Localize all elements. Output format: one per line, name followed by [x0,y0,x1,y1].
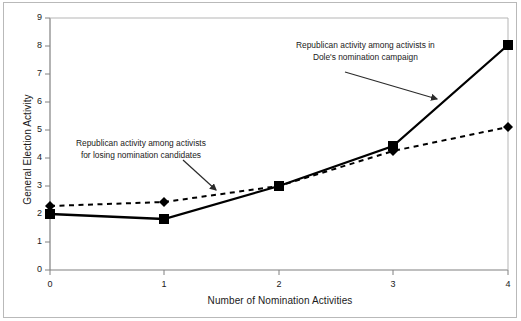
y-tick-label-8: 8 [26,40,42,50]
y-tick-label-0: 0 [26,264,42,274]
y-tick-label-9: 9 [26,12,42,22]
annotation-dole-line1: Republican activity among activists in [296,40,435,52]
series-losing-markers [45,122,513,211]
y-axis-title: General Election Activity [22,70,33,230]
x-axis-ticks [50,270,508,275]
annotation-losing-candidates: Republican activity among activists for … [76,138,206,161]
series-dole-markers [45,40,513,224]
x-tick-label-4: 4 [500,279,516,289]
annotation-losing-line2: for losing nomination candidates [76,150,206,162]
annotation-dole-campaign: Republican activity among activists in D… [296,40,435,63]
x-tick-label-3: 3 [385,279,401,289]
y-axis-ticks [45,18,50,270]
x-tick-label-0: 0 [42,279,58,289]
chart-figure: 9 8 7 6 5 4 3 2 1 0 0 1 2 3 4 General El… [0,0,521,321]
annotation-dole-line2: Dole's nomination campaign [296,52,435,64]
series-dole-campaign [45,40,513,224]
annotation-losing-line1: Republican activity among activists [76,138,206,150]
series-losing-candidates [45,122,513,211]
annotation-arrow-losing [183,160,216,190]
annotation-arrow-dole [345,72,437,99]
y-tick-label-1: 1 [26,236,42,246]
x-axis-title: Number of Nomination Activities [50,295,510,306]
x-tick-label-2: 2 [271,279,287,289]
x-tick-label-1: 1 [156,279,172,289]
